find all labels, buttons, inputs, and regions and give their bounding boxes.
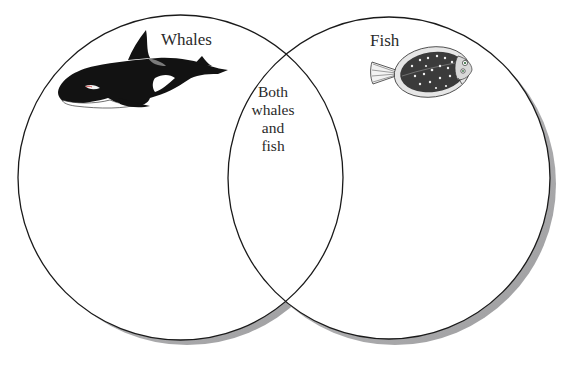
venn-diagram <box>0 0 570 367</box>
intersection-label: Both whales and fish <box>246 83 300 155</box>
intersection-label-line: Both <box>246 83 300 101</box>
whales-set-label: Whales <box>161 31 212 48</box>
intersection-label-line: fish <box>246 137 300 155</box>
intersection-label-line: whales <box>246 101 300 119</box>
fish-set-label: Fish <box>370 32 399 49</box>
intersection-label-line: and <box>246 119 300 137</box>
